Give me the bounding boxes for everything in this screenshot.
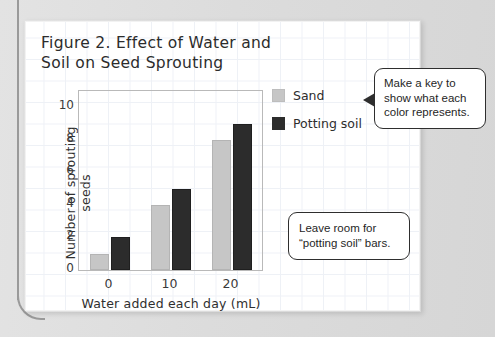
chart-legend: Sand Potting soil bbox=[272, 88, 362, 144]
callout-key-line-1: Make a key to bbox=[384, 76, 477, 91]
x-tick-10: 10 bbox=[150, 276, 190, 291]
screenshot-root: Figure 2. Effect of Water and Soil on Se… bbox=[0, 0, 495, 337]
bar-sand-20 bbox=[212, 140, 231, 270]
legend-label-sand: Sand bbox=[293, 88, 324, 103]
sand-swatch-icon bbox=[272, 89, 285, 102]
callout-key-line-3: color represents. bbox=[384, 105, 477, 120]
callout-arrow-icon bbox=[363, 93, 375, 107]
y-tick-0: 0 bbox=[52, 261, 74, 275]
x-tick-0: 0 bbox=[89, 276, 129, 291]
x-axis-label: Water added each day (mL) bbox=[62, 296, 280, 311]
figure-title: Figure 2. Effect of Water and Soil on Se… bbox=[41, 33, 281, 73]
bar-sand-0 bbox=[90, 254, 109, 270]
y-tick-6: 6 bbox=[52, 163, 74, 177]
callout-leave-room: Leave room for “potting soil” bars. bbox=[288, 212, 410, 260]
y-tick-8: 8 bbox=[52, 131, 74, 145]
callout-make-a-key: Make a key to show what each color repre… bbox=[374, 68, 486, 129]
legend-item-potting-soil: Potting soil bbox=[272, 116, 362, 131]
legend-item-sand: Sand bbox=[272, 88, 362, 103]
callout-room-line-1: Leave room for bbox=[299, 221, 400, 236]
bar-sand-10 bbox=[151, 205, 170, 270]
y-axis-ticks: 0246810 bbox=[50, 90, 74, 271]
bar-potting-soil-20 bbox=[233, 124, 252, 270]
figure-title-line-2: Soil on Seed Sprouting bbox=[41, 53, 281, 73]
legend-label-potting-soil: Potting soil bbox=[293, 116, 362, 131]
x-axis-ticks: 01020 bbox=[78, 272, 263, 292]
plot-area bbox=[79, 91, 262, 270]
bar-potting-soil-0 bbox=[111, 237, 130, 270]
callout-key-line-2: show what each bbox=[384, 91, 477, 106]
figure-title-line-1: Figure 2. Effect of Water and bbox=[41, 33, 281, 53]
callout-room-line-2: “potting soil” bars. bbox=[299, 236, 400, 251]
page-margin-line bbox=[17, 0, 19, 300]
x-tick-20: 20 bbox=[211, 276, 251, 291]
potting-soil-swatch-icon bbox=[272, 117, 285, 130]
y-tick-10: 10 bbox=[52, 98, 74, 112]
y-tick-4: 4 bbox=[52, 196, 74, 210]
y-tick-2: 2 bbox=[52, 228, 74, 242]
bar-potting-soil-10 bbox=[172, 189, 191, 270]
plot-frame bbox=[78, 90, 263, 271]
